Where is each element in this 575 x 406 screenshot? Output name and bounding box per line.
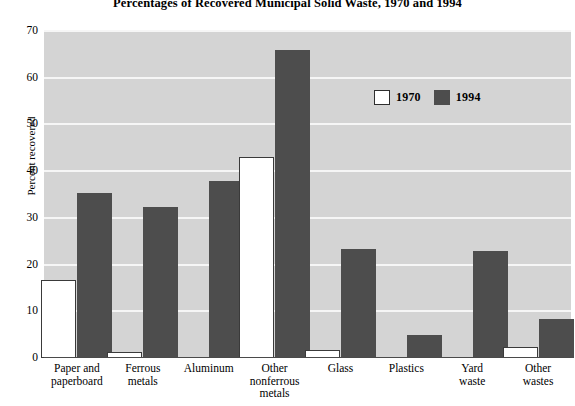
y-axis-tick-label: 70 [2,25,38,36]
bar-1970-3 [239,157,274,358]
chart-title: Percentages of Recovered Municipal Solid… [0,0,575,10]
bar-1994-1 [143,207,178,358]
y-axis-tick-label: 60 [2,72,38,83]
y-axis-tick-label: 10 [2,305,38,316]
y-axis-tick-label: 40 [2,165,38,176]
bar-1994-6 [473,251,508,358]
y-axis-tick-label: 30 [2,212,38,223]
legend-label-1994: 1994 [456,90,481,105]
bar-1994-0 [77,193,112,358]
x-axis-line [44,357,571,358]
x-axis-tick-label-line: metals [88,375,198,388]
x-axis-tick-label-line: wastes [483,375,575,388]
chart-figure: Percentages of Recovered Municipal Solid… [0,0,575,406]
bar-1994-3 [275,50,310,358]
bar-1994-5 [407,335,442,358]
bar-1970-0 [41,280,76,358]
dark-square-swatch-icon [434,90,450,105]
x-axis-tick-label: Otherwastes [483,362,575,387]
legend-item-1970: 1970 [374,90,421,105]
chart-legend: 1970 1994 [374,90,481,105]
legend-label-1970: 1970 [396,90,421,105]
gridline [44,30,571,32]
plot-area [44,31,571,358]
legend-item-1994: 1994 [434,90,481,105]
bar-1994-4 [341,249,376,358]
x-axis-tick-label-line: metals [220,387,330,400]
y-axis-tick-label: 50 [2,118,38,129]
white-square-swatch-icon [374,90,390,105]
x-axis-tick-label-line: Other [483,362,575,375]
x-axis-tick-label-line: nonferrous [220,375,330,388]
bar-1994-7 [539,319,574,358]
y-axis-tick-label: 20 [2,259,38,270]
